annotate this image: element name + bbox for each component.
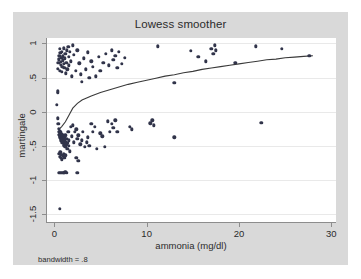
- figure-canvas: Lowess smoother ammonia (mg/dl) martinga…: [13, 12, 348, 265]
- y-tick-mark: [42, 112, 46, 113]
- y-tick-mark: [42, 43, 46, 44]
- bandwidth-note: bandwidth = .8: [38, 255, 88, 264]
- y-tick-label: -1.5: [27, 205, 38, 223]
- x-tick-mark: [147, 223, 148, 227]
- y-tick-mark: [42, 180, 46, 181]
- y-tick-label: .5: [27, 69, 38, 87]
- x-tick-label: 10: [141, 228, 152, 239]
- y-tick-label: 1: [27, 34, 38, 52]
- x-tick-label: 0: [52, 228, 57, 239]
- x-tick-label: 30: [326, 228, 337, 239]
- x-tick-mark: [239, 223, 240, 227]
- lowess-curve: [59, 56, 313, 130]
- x-axis-label: ammonia (mg/dl): [46, 240, 336, 251]
- y-tick-label: -.5: [27, 137, 38, 155]
- x-tick-mark: [54, 223, 55, 227]
- y-tick-label: 0: [27, 103, 38, 121]
- y-tick-mark: [42, 146, 46, 147]
- y-tick-mark: [42, 78, 46, 79]
- x-tick-label: 20: [234, 228, 245, 239]
- x-tick-mark: [331, 223, 332, 227]
- y-tick-label: -1: [27, 171, 38, 189]
- y-tick-mark: [42, 214, 46, 215]
- y-axis-label: martingale: [16, 106, 27, 166]
